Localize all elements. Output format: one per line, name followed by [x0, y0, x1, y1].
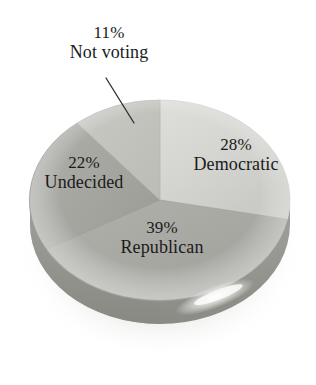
undecided-percent: 22%	[16, 153, 152, 172]
slice-label-undecided: 22% Undecided	[16, 153, 152, 192]
slice-label-republican: 39% Republican	[92, 218, 232, 257]
not-voting-name: Not voting	[34, 42, 184, 62]
democratic-name: Democratic	[168, 154, 304, 174]
pie-rim-glow	[30, 100, 290, 300]
slice-label-democratic: 28% Democratic	[168, 135, 304, 174]
not-voting-percent: 11%	[34, 23, 184, 42]
republican-percent: 39%	[92, 218, 232, 237]
undecided-name: Undecided	[16, 172, 152, 192]
democratic-percent: 28%	[168, 135, 304, 154]
slice-label-not-voting: 11% Not voting	[34, 23, 184, 62]
pie-chart-figure: 11% Not voting 28% Democratic 22% Undeci…	[0, 0, 316, 385]
republican-name: Republican	[92, 237, 232, 257]
